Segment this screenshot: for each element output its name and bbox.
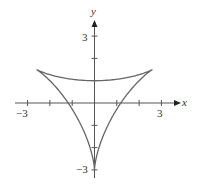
- x-axis-label: x: [182, 97, 187, 108]
- x-tick-label-min: −3: [16, 108, 28, 119]
- x-tick-label-max: 3: [157, 108, 163, 119]
- axes: [15, 20, 181, 178]
- y-tick-label-max: 3: [82, 32, 88, 43]
- y-tick-label-min: −3: [76, 164, 88, 175]
- x-axis-arrow-icon: [174, 100, 181, 106]
- deltoid-plot: [0, 0, 200, 191]
- y-axis-arrow-icon: [92, 20, 98, 27]
- y-axis-label: y: [91, 6, 96, 17]
